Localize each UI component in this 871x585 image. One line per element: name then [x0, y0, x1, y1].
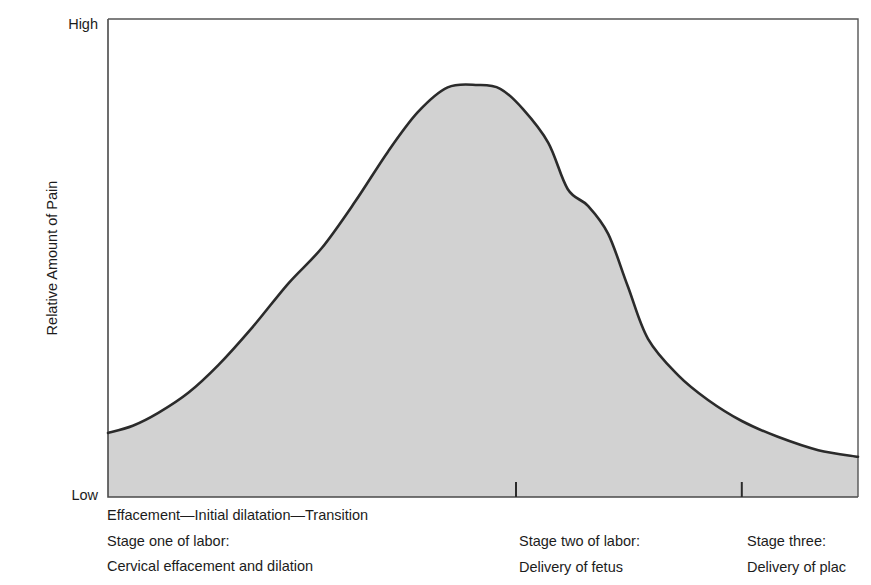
caption-stage-three-line-1: Stage three:: [747, 529, 846, 555]
caption-stage-one-line-2: Stage one of labor:: [107, 529, 368, 555]
caption-stage-one: Effacement—Initial dilatation—Transition…: [107, 503, 368, 580]
caption-stage-two-line-1: Stage two of labor:: [519, 529, 640, 555]
caption-stage-one-line-3: Cervical effacement and dilation: [107, 554, 368, 580]
caption-stage-one-line-1: Effacement—Initial dilatation—Transition: [107, 503, 368, 529]
pain-curve-figure: High Low Relative Amount of Pain Effacem…: [0, 0, 871, 585]
chart-plot-area: [0, 0, 871, 585]
caption-stage-two-line-2: Delivery of fetus: [519, 555, 640, 581]
caption-stage-three: Stage three: Delivery of plac: [747, 529, 846, 580]
caption-stage-two: Stage two of labor: Delivery of fetus: [519, 529, 640, 580]
pain-curve-area-fill: [108, 84, 858, 497]
caption-stage-three-line-2: Delivery of plac: [747, 555, 846, 581]
